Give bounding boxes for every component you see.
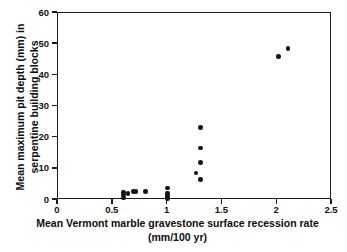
data-point bbox=[143, 189, 148, 194]
data-point bbox=[198, 146, 203, 151]
plot-area bbox=[57, 12, 331, 199]
y-axis-tick bbox=[52, 167, 57, 168]
scatter-chart-figure: 00.511.522.5 0102030405060 Mean Vermont … bbox=[0, 0, 347, 252]
x-axis-tick-label: 1 bbox=[147, 204, 187, 215]
y-axis-label: Mean maximum pit depth (mm) in serpentin… bbox=[13, 2, 41, 212]
data-point bbox=[165, 186, 170, 191]
data-point bbox=[198, 160, 203, 165]
x-axis-label: Mean Vermont marble gravestone surface r… bbox=[30, 216, 325, 244]
data-point bbox=[198, 177, 203, 182]
y-axis-tick bbox=[52, 74, 57, 75]
y-axis-tick bbox=[52, 136, 57, 137]
x-axis-tick-label: 2 bbox=[256, 204, 296, 215]
x-axis-tick-label: 1.5 bbox=[201, 204, 241, 215]
data-point bbox=[198, 125, 203, 130]
x-axis-tick-label: 0 bbox=[37, 204, 77, 215]
data-point bbox=[126, 191, 131, 196]
y-axis-tick bbox=[52, 42, 57, 43]
data-point bbox=[134, 189, 139, 194]
x-axis-tick-label: 2.5 bbox=[311, 204, 347, 215]
y-axis-tick bbox=[52, 198, 57, 199]
y-axis-tick bbox=[52, 11, 57, 12]
x-axis-tick-label: 0.5 bbox=[92, 204, 132, 215]
y-axis-tick bbox=[52, 105, 57, 106]
data-point bbox=[276, 54, 281, 59]
data-point bbox=[194, 171, 199, 176]
data-point bbox=[286, 46, 291, 51]
